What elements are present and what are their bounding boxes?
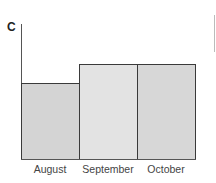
x-tick-label-october: October [137,163,195,175]
bar-october [137,64,196,159]
x-tick-label-august: August [21,163,79,175]
bar-august [21,83,80,159]
page-edge-divider [214,15,215,52]
panel-label: C [7,20,16,34]
x-axis [21,159,196,160]
bar-september [79,64,138,159]
x-tick-label-september: September [79,163,137,175]
